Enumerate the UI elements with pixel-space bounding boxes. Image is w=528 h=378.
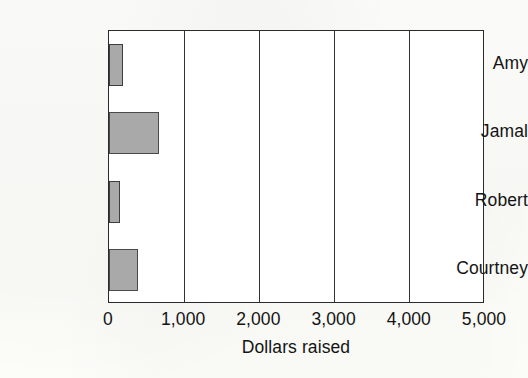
category-label-jamal: Jamal xyxy=(426,121,528,142)
horizontal-bar-chart: AmyJamalRobertCourtney 01,0002,0003,0004… xyxy=(0,0,528,378)
bar-amy[interactable] xyxy=(109,44,123,86)
x-tick-1000: 1,000 xyxy=(161,309,205,330)
x-tick-2000: 2,000 xyxy=(236,309,280,330)
category-label-courtney: Courtney xyxy=(426,258,528,279)
x-tick-5000: 5,000 xyxy=(462,309,506,330)
category-label-robert: Robert xyxy=(426,190,528,211)
x-tick-3000: 3,000 xyxy=(311,309,355,330)
x-tick-0: 0 xyxy=(103,309,113,330)
bar-robert[interactable] xyxy=(109,181,120,223)
bar-jamal[interactable] xyxy=(109,112,159,154)
bar-courtney[interactable] xyxy=(109,249,138,291)
category-label-amy: Amy xyxy=(426,53,528,74)
x-axis-title: Dollars raised xyxy=(108,337,484,358)
x-tick-4000: 4,000 xyxy=(387,309,431,330)
